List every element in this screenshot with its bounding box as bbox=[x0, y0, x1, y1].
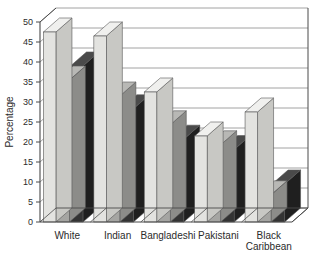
y-tick-label: 30 bbox=[23, 97, 33, 107]
bar-front bbox=[144, 92, 157, 222]
bar-side bbox=[157, 78, 173, 222]
bar-bangladeshi-series-1 bbox=[144, 78, 173, 222]
category-label: Black bbox=[257, 230, 282, 241]
category-label: Pakistani bbox=[198, 230, 239, 241]
y-tick-label: 25 bbox=[23, 117, 33, 127]
bar-side bbox=[56, 18, 72, 222]
y-tick-label: 45 bbox=[23, 37, 33, 47]
y-tick-label: 10 bbox=[23, 177, 33, 187]
bar-side bbox=[106, 22, 122, 222]
bar-front bbox=[195, 136, 208, 222]
bar-black-caribbean-series-1 bbox=[245, 98, 273, 222]
category-label: White bbox=[54, 230, 80, 241]
bar-indian-series-1 bbox=[94, 22, 123, 222]
y-tick-label: 35 bbox=[23, 77, 33, 87]
y-axis-label-group: Percentage bbox=[4, 96, 15, 148]
category-label: Caribbean bbox=[246, 241, 292, 252]
category-label: Indian bbox=[104, 230, 131, 241]
y-tick-label: 50 bbox=[23, 17, 33, 27]
bar-front bbox=[94, 36, 107, 222]
bar-chart: 05101520253035404550 WhiteIndianBanglade… bbox=[0, 0, 315, 257]
chart-canvas: 05101520253035404550 WhiteIndianBanglade… bbox=[0, 0, 315, 257]
bar-front bbox=[43, 32, 56, 222]
bar-front bbox=[245, 112, 257, 222]
bar-side bbox=[258, 98, 274, 222]
bar-pakistani-series-1 bbox=[195, 122, 224, 222]
bar-side bbox=[207, 122, 223, 222]
y-tick-label: 5 bbox=[28, 197, 33, 207]
y-tick-label: 0 bbox=[28, 217, 33, 227]
y-tick-label: 40 bbox=[23, 57, 33, 67]
y-axis-label: Percentage bbox=[4, 96, 15, 148]
y-tick-label: 15 bbox=[23, 157, 33, 167]
bar-white-series-1 bbox=[43, 18, 71, 222]
category-label: Bangladeshi bbox=[140, 230, 195, 241]
y-tick-label: 20 bbox=[23, 137, 33, 147]
